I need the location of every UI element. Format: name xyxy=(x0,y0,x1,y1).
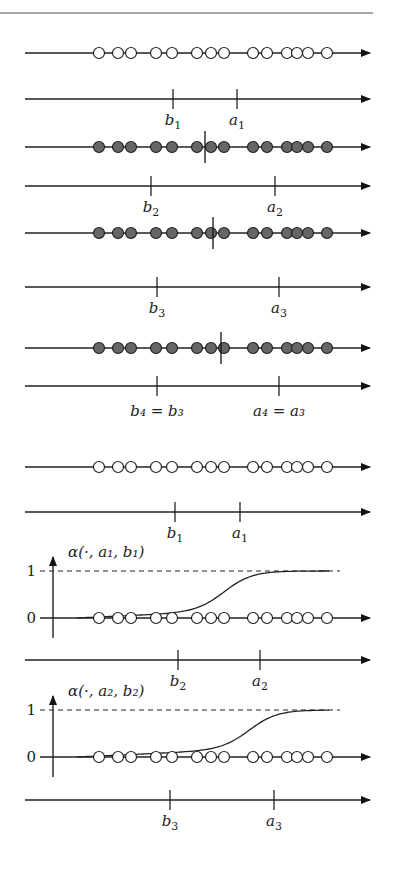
data-point xyxy=(322,613,333,624)
data-point xyxy=(248,48,259,59)
data-point xyxy=(262,142,273,153)
tick-label: b₄ = b₃ xyxy=(130,402,183,420)
data-point xyxy=(192,462,203,473)
data-point xyxy=(303,613,314,624)
data-point xyxy=(282,462,293,473)
data-point xyxy=(303,752,314,763)
data-point xyxy=(126,343,137,354)
data-point xyxy=(94,613,105,624)
data-point xyxy=(292,462,303,473)
data-point xyxy=(94,462,105,473)
data-point xyxy=(303,462,314,473)
step-diagram: b1a1b2a2b3a3b₄ = b₃a₄ = a₃b1a110α(·, a₁,… xyxy=(0,0,399,874)
row4-points xyxy=(94,343,333,354)
data-point xyxy=(248,142,259,153)
data-point xyxy=(282,48,293,59)
tick-label: a2 xyxy=(252,672,268,693)
data-point xyxy=(113,613,124,624)
tick-label: a3 xyxy=(271,299,287,320)
data-point xyxy=(167,142,178,153)
data-point xyxy=(322,48,333,59)
diagram-content: b1a1b2a2b3a3b₄ = b₃a₄ = a₃b1a110α(·, a₁,… xyxy=(25,48,370,834)
data-point xyxy=(248,343,259,354)
data-point xyxy=(292,228,303,239)
tick-label: a3 xyxy=(266,812,282,833)
data-point xyxy=(292,142,303,153)
data-point xyxy=(262,462,273,473)
data-point xyxy=(126,228,137,239)
data-point xyxy=(303,48,314,59)
data-point xyxy=(113,48,124,59)
y-label-one: 1 xyxy=(26,562,36,580)
data-point xyxy=(151,48,162,59)
data-point xyxy=(167,462,178,473)
row7-plot-points xyxy=(94,752,333,763)
data-point xyxy=(303,228,314,239)
data-point xyxy=(292,613,303,624)
sigmoid-curve xyxy=(77,710,329,757)
data-point xyxy=(167,752,178,763)
data-point xyxy=(113,343,124,354)
data-point xyxy=(94,752,105,763)
data-point xyxy=(322,343,333,354)
data-point xyxy=(192,613,203,624)
data-point xyxy=(303,142,314,153)
data-point xyxy=(151,752,162,763)
data-point xyxy=(292,48,303,59)
data-point xyxy=(113,142,124,153)
data-point xyxy=(303,343,314,354)
data-point xyxy=(192,752,203,763)
data-point xyxy=(282,343,293,354)
data-point xyxy=(262,752,273,763)
tick-label: a1 xyxy=(229,111,245,132)
data-point xyxy=(248,613,259,624)
data-point xyxy=(292,343,303,354)
data-point xyxy=(219,48,230,59)
function-title: α(·, a₁, b₁) xyxy=(68,543,144,561)
data-point xyxy=(113,752,124,763)
data-point xyxy=(151,613,162,624)
data-point xyxy=(219,142,230,153)
row2-points xyxy=(94,142,333,153)
data-point xyxy=(192,48,203,59)
data-point xyxy=(219,462,230,473)
data-point xyxy=(262,343,273,354)
data-point xyxy=(126,613,137,624)
data-point xyxy=(206,142,217,153)
data-point xyxy=(113,228,124,239)
data-point xyxy=(167,613,178,624)
data-point xyxy=(126,462,137,473)
row5-points xyxy=(94,462,333,473)
data-point xyxy=(113,462,124,473)
data-point xyxy=(192,142,203,153)
data-point xyxy=(206,343,217,354)
data-point xyxy=(219,228,230,239)
data-point xyxy=(262,613,273,624)
data-point xyxy=(248,462,259,473)
data-point xyxy=(219,752,230,763)
data-point xyxy=(126,752,137,763)
data-point xyxy=(151,228,162,239)
data-point xyxy=(167,343,178,354)
tick-label: b2 xyxy=(170,672,187,693)
tick-label: b3 xyxy=(149,299,166,320)
data-point xyxy=(292,752,303,763)
y-label-zero: 0 xyxy=(26,748,36,766)
tick-label: a2 xyxy=(267,198,283,219)
data-point xyxy=(126,142,137,153)
tick-label: a1 xyxy=(232,524,248,545)
tick-label: a₄ = a₃ xyxy=(253,402,305,420)
data-point xyxy=(94,228,105,239)
data-point xyxy=(322,752,333,763)
data-point xyxy=(322,142,333,153)
data-point xyxy=(262,48,273,59)
data-point xyxy=(206,48,217,59)
data-point xyxy=(322,462,333,473)
data-point xyxy=(94,343,105,354)
data-point xyxy=(248,752,259,763)
data-point xyxy=(206,613,217,624)
data-point xyxy=(219,343,230,354)
tick-label: b1 xyxy=(167,524,184,545)
data-point xyxy=(151,462,162,473)
data-point xyxy=(192,343,203,354)
